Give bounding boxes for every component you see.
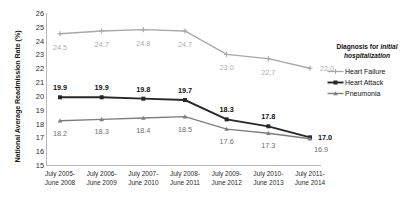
legend-marker-ha <box>327 78 344 87</box>
data-label-ha-3: 19.7 <box>178 86 192 95</box>
data-label-hf-1: 24.7 <box>95 39 109 48</box>
point-hf-0 <box>57 31 62 36</box>
data-label-ha-2: 19.8 <box>136 84 150 93</box>
point-hf-4 <box>224 52 229 57</box>
point-hf-5 <box>266 56 271 61</box>
legend-marker-hf <box>327 67 344 76</box>
y-tick-24: 24 <box>14 36 44 45</box>
x-tick-6: July 2011-June 2014 <box>283 170 337 187</box>
y-tick-23: 23 <box>14 50 44 59</box>
data-label-ha-5: 17.8 <box>261 112 275 121</box>
legend-item-pn[interactable]: Pneumonia <box>327 88 407 99</box>
readmission-rate-line-chart: National Average Readmission Rate (%) 26… <box>0 0 407 206</box>
legend-marker-pn <box>327 89 344 98</box>
point-hf-2 <box>141 27 146 32</box>
data-label-ha-6: 17.0 <box>318 133 332 142</box>
y-tick-18: 18 <box>14 119 44 128</box>
point-ha-3 <box>183 98 187 102</box>
data-label-hf-0: 24.5 <box>53 42 67 51</box>
point-hf-6 <box>307 66 312 71</box>
y-tick-25: 25 <box>14 22 44 31</box>
x-axis-tick-labels: July 2005-June 2008July 2006-June 2009Ju… <box>46 170 321 194</box>
line-hf <box>60 30 310 69</box>
point-ha-1 <box>100 95 104 99</box>
x-axis-line <box>46 165 321 166</box>
legend-label-ha: Heart Attack <box>345 79 383 86</box>
y-tick-17: 17 <box>14 133 44 142</box>
point-ha-5 <box>266 124 270 128</box>
data-label-ha-1: 19.9 <box>95 83 109 92</box>
data-label-pn-5: 17.3 <box>261 141 275 150</box>
data-label-pn-0: 18.2 <box>53 128 67 137</box>
point-ha-2 <box>141 97 145 101</box>
data-label-ha-4: 18.3 <box>220 105 234 114</box>
data-label-pn-3: 18.5 <box>178 124 192 133</box>
data-label-hf-2: 24.8 <box>136 38 150 47</box>
point-ha-0 <box>58 95 62 99</box>
data-label-pn-6: 16.9 <box>314 144 328 153</box>
y-tick-20: 20 <box>14 91 44 100</box>
data-label-pn-2: 18.4 <box>136 126 150 135</box>
data-label-hf-5: 22.7 <box>261 67 275 76</box>
data-label-hf-4: 23.0 <box>220 63 234 72</box>
data-label-pn-1: 18.3 <box>95 127 109 136</box>
data-label-pn-4: 17.6 <box>220 137 234 146</box>
legend-title-italic: initial <box>380 43 397 50</box>
y-tick-19: 19 <box>14 105 44 114</box>
y-axis-tick-labels: 262524232221201918171615 <box>8 13 44 166</box>
legend-title: Diagnosis for initial hospitalization <box>327 42 407 61</box>
legend-title-prefix: Diagnosis for <box>336 43 380 50</box>
legend-items: Heart FailureHeart AttackPneumonia <box>327 66 407 99</box>
legend: Diagnosis for initial hospitalization He… <box>327 42 407 99</box>
data-label-ha-0: 19.9 <box>53 83 67 92</box>
point-ha-4 <box>225 117 229 121</box>
legend-title-line2: hospitalization <box>344 52 390 59</box>
legend-label-hf: Heart Failure <box>345 68 385 75</box>
legend-item-hf[interactable]: Heart Failure <box>327 66 407 77</box>
y-tick-26: 26 <box>14 9 44 18</box>
point-hf-1 <box>99 28 104 33</box>
y-tick-21: 21 <box>14 78 44 87</box>
legend-item-ha[interactable]: Heart Attack <box>327 77 407 88</box>
point-hf-3 <box>182 28 187 33</box>
y-tick-15: 15 <box>14 161 44 170</box>
plot-area: 24.524.724.824.723.022.722.019.919.919.8… <box>46 13 320 165</box>
data-label-hf-3: 24.7 <box>178 39 192 48</box>
legend-label-pn: Pneumonia <box>345 90 380 97</box>
y-tick-22: 22 <box>14 64 44 73</box>
y-tick-16: 16 <box>14 147 44 156</box>
